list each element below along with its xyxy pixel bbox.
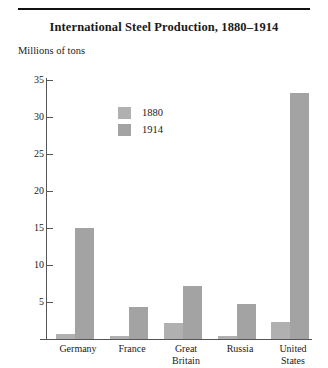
y-tick-mark [47, 228, 53, 229]
x-category-label-line: France [110, 343, 154, 355]
y-tick-label: 35 [20, 75, 44, 85]
y-tick-mark [47, 80, 53, 81]
bar-pair [218, 77, 256, 339]
y-tick-mark [47, 191, 53, 192]
y-tick-mark [47, 154, 53, 155]
bar-1880 [56, 334, 75, 339]
y-tick-mark [47, 117, 53, 118]
x-category-label: GreatBritain [164, 343, 208, 367]
bar-1880 [271, 322, 290, 339]
y-tick-label: 15 [20, 223, 44, 233]
x-category-label: Russia [218, 343, 262, 355]
x-category-label-line: Britain [164, 355, 208, 367]
chart-figure: International Steel Production, 1880–191… [0, 0, 328, 368]
bar-group: GreatBritain [164, 77, 208, 339]
y-tick-label: 30 [20, 112, 44, 122]
x-category-label-line: States [271, 355, 315, 367]
plot-area: 5101520253035 18801914 GermanyFranceGrea… [0, 0, 328, 368]
bar-pair [56, 77, 94, 339]
bar-1880 [110, 336, 129, 339]
bar-1914 [75, 228, 94, 339]
x-axis-line [40, 339, 312, 340]
bar-group: UnitedStates [271, 77, 315, 339]
bar-pair [271, 77, 309, 339]
bar-group: France [110, 77, 154, 339]
y-tick-label: 20 [20, 186, 44, 196]
bar-pair [164, 77, 202, 339]
y-tick-mark [47, 265, 53, 266]
x-category-label: Germany [56, 343, 100, 355]
bar-pair [110, 77, 148, 339]
bar-1880 [164, 323, 183, 339]
bar-1914 [237, 304, 256, 339]
x-category-label: France [110, 343, 154, 355]
bar-group: Germany [56, 77, 100, 339]
bar-1914 [129, 307, 148, 339]
x-category-label-line: Great [164, 343, 208, 355]
y-tick-label: 5 [20, 297, 44, 307]
bar-group: Russia [218, 77, 262, 339]
x-category-label-line: United [271, 343, 315, 355]
bar-1880 [218, 336, 237, 339]
y-tick-mark [47, 302, 53, 303]
x-category-label: UnitedStates [271, 343, 315, 367]
y-tick-label: 25 [20, 149, 44, 159]
x-category-label-line: Germany [56, 343, 100, 355]
x-category-label-line: Russia [218, 343, 262, 355]
bar-1914 [290, 93, 309, 339]
bar-1914 [183, 286, 202, 339]
y-tick-label: 10 [20, 260, 44, 270]
